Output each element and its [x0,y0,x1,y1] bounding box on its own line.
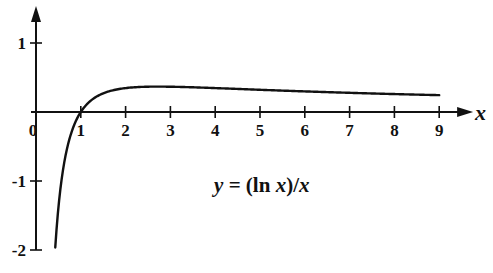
y-tick-label: -2 [12,241,26,260]
chart: 01234567891-1-2 x y = (ln x)/x [0,0,493,273]
y-tick-label: 1 [18,34,27,53]
axes [31,6,473,250]
x-tick-label: 9 [435,121,444,140]
x-tick-label: 3 [166,121,175,140]
x-tick-label: 0 [29,121,38,140]
x-tick-label: 2 [121,121,130,140]
x-tick-label: 6 [301,121,310,140]
tick-labels: 01234567891-1-2 [12,34,444,260]
x-tick-label: 8 [390,121,399,140]
x-tick-label: 5 [256,121,265,140]
x-tick-label: 1 [77,121,86,140]
curve-ln-x-over-x [55,87,439,248]
x-axis-label: x [474,100,486,125]
function-curve [55,87,439,248]
y-axis-arrow-icon [31,6,41,22]
x-axis-arrow-icon [457,107,473,117]
y-tick-label: -1 [12,172,26,191]
ticks [30,43,439,250]
x-tick-label: 7 [345,121,354,140]
equation-annotation: y = (ln x)/x [211,173,309,197]
x-tick-label: 4 [211,121,220,140]
